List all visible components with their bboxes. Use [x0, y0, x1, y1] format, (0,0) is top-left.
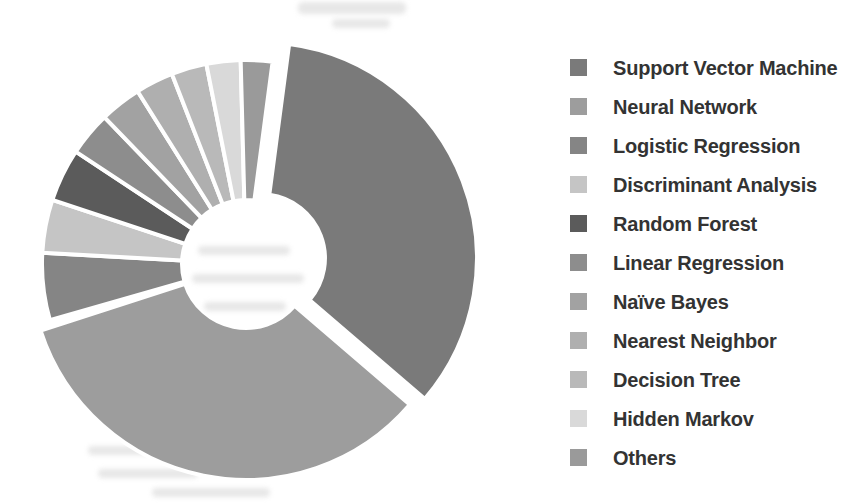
- legend-label: Discriminant Analysis: [613, 175, 817, 195]
- legend-swatch-neural-network: [570, 98, 587, 115]
- legend-swatch-linear-regression: [570, 254, 587, 271]
- legend-label: Logistic Regression: [613, 136, 800, 156]
- legend-item-decision-tree: Decision Tree: [570, 371, 838, 388]
- legend-swatch-hidden-markov: [570, 410, 587, 427]
- legend-swatch-support-vector-machine: [570, 59, 587, 76]
- legend-label: Random Forest: [613, 214, 757, 234]
- legend-item-logistic-regression: Logistic Regression: [570, 137, 838, 154]
- legend-item-nearest-neighbor: Nearest Neighbor: [570, 332, 838, 349]
- slice-others: [241, 60, 273, 201]
- legend-label: Naïve Bayes: [613, 292, 729, 312]
- legend-item-hidden-markov: Hidden Markov: [570, 410, 838, 427]
- donut-chart: [0, 0, 530, 504]
- legend-label: Hidden Markov: [613, 409, 754, 429]
- legend-swatch-decision-tree: [570, 371, 587, 388]
- legend-item-naive-bayes: Naïve Bayes: [570, 293, 838, 310]
- legend-item-support-vector-machine: Support Vector Machine: [570, 59, 838, 76]
- legend-item-random-forest: Random Forest: [570, 215, 838, 232]
- chart-legend: Support Vector MachineNeural NetworkLogi…: [570, 59, 838, 488]
- legend-swatch-naive-bayes: [570, 293, 587, 310]
- legend-label: Others: [613, 448, 676, 468]
- legend-label: Nearest Neighbor: [613, 331, 777, 351]
- legend-label: Neural Network: [613, 97, 757, 117]
- legend-swatch-nearest-neighbor: [570, 332, 587, 349]
- legend-item-neural-network: Neural Network: [570, 98, 838, 115]
- legend-swatch-logistic-regression: [570, 137, 587, 154]
- legend-swatch-discriminant-analysis: [570, 176, 587, 193]
- scanned-figure-page: Support Vector MachineNeural NetworkLogi…: [0, 0, 868, 504]
- legend-item-others: Others: [570, 449, 838, 466]
- legend-item-discriminant-analysis: Discriminant Analysis: [570, 176, 838, 193]
- legend-swatch-others: [570, 449, 587, 466]
- legend-swatch-random-forest: [570, 215, 587, 232]
- legend-label: Decision Tree: [613, 370, 740, 390]
- legend-item-linear-regression: Linear Regression: [570, 254, 838, 271]
- legend-label: Support Vector Machine: [613, 58, 838, 78]
- legend-label: Linear Regression: [613, 253, 784, 273]
